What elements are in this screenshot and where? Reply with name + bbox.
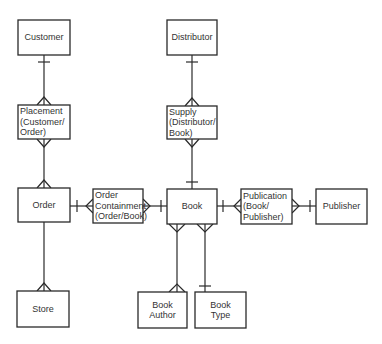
entity-publication: Publication(Book/Publisher) [241,189,292,224]
entity-label: Book) [169,128,193,138]
entity-label: Book [152,300,173,310]
entity-label: Order [95,190,118,200]
entity-label: Supply [169,107,197,117]
entity-label: Distributor [171,32,212,42]
entity-label: (Book/ [243,201,270,211]
entity-customer: Customer [18,20,70,55]
entity-book-author: BookAuthor [138,292,187,328]
entity-label: Publisher [323,201,361,211]
entity-order: Order [18,188,70,222]
entity-label: Publisher) [243,212,284,222]
entity-label: (Order/Book) [95,211,147,221]
entity-label: Book [210,300,231,310]
entity-publisher: Publisher [316,189,367,224]
relationship-lines [37,55,316,292]
entity-label: Order) [20,127,46,137]
entity-distributor: Distributor [167,20,217,55]
entity-label: (Customer/ [20,117,65,127]
entity-label: Placement [20,106,63,116]
entity-label: Containment [95,201,147,211]
er-diagram: CustomerPlacement(Customer/Order)OrderSt… [0,0,382,344]
entity-label: Type [211,310,231,320]
entity-book: Book [167,189,217,224]
entity-label: Publication [243,191,287,201]
entity-label: Customer [24,32,63,42]
entity-supply: Supply(Distributor/Book) [167,106,217,139]
entity-order-containment: OrderContainment(Order/Book) [93,189,147,223]
entity-label: Book [182,201,203,211]
entity-book-type: BookType [195,292,246,328]
entity-label: Store [32,304,54,314]
entity-store: Store [17,291,69,327]
entity-placement: Placement(Customer/Order) [18,105,70,139]
entity-label: Author [149,310,176,320]
entity-label: Order [32,200,55,210]
entity-label: (Distributor/ [169,117,216,127]
